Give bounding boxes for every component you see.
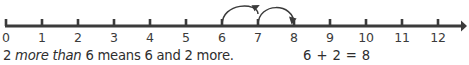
caption-part-2: 6 means 6 and 2 more.	[81, 48, 233, 63]
caption-row: 2 more than 6 means 6 and 2 more. 6 + 2 …	[0, 47, 469, 65]
tick-label-4: 4	[135, 31, 165, 45]
jump-arc-6-to-7	[222, 5, 260, 25]
caption-part-1: 2	[3, 48, 15, 63]
equation-text: 6 + 2 = 8	[303, 47, 371, 65]
tick-label-5: 5	[171, 31, 201, 45]
tick-label-9: 9	[315, 31, 345, 45]
tick-label-11: 11	[387, 31, 417, 45]
tick-label-7: 7	[243, 31, 273, 45]
caption-emphasis: more than	[15, 48, 81, 63]
tick-label-2: 2	[63, 31, 93, 45]
tick-label-6: 6	[207, 31, 237, 45]
jump-arc-7-to-8-path	[258, 8, 294, 25]
axis-arrowhead-icon	[461, 21, 467, 32]
tick-label-3: 3	[99, 31, 129, 45]
tick-label-0: 0	[0, 31, 21, 45]
tick-label-12: 12	[423, 31, 453, 45]
number-line-figure: 0 1 2 3 4 5 6 7 8 9 10 11 12 2 more than…	[0, 0, 469, 65]
jump-arc-6-to-7-path	[222, 6, 258, 25]
tick-label-10: 10	[351, 31, 381, 45]
jump-arc-7-to-8	[258, 8, 297, 25]
caption-sentence: 2 more than 6 means 6 and 2 more.	[3, 47, 234, 65]
tick-label-8: 8	[279, 31, 309, 45]
tick-label-1: 1	[27, 31, 57, 45]
